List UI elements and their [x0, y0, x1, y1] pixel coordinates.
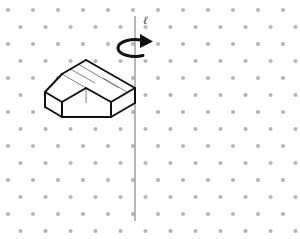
- grid-dot: [231, 212, 235, 216]
- grid-dot: [68, 161, 72, 165]
- grid-dot: [81, 212, 85, 216]
- grid-dot: [181, 144, 185, 148]
- grid-dot: [118, 229, 122, 233]
- grid-dot: [193, 93, 197, 97]
- grid-dot: [231, 42, 235, 46]
- grid-dot: [231, 144, 235, 148]
- grid-dot: [231, 110, 235, 114]
- grid-dot: [118, 59, 122, 63]
- grid-dot: [218, 25, 222, 29]
- grid-dot: [56, 178, 60, 182]
- grid-dot: [31, 178, 35, 182]
- grid-dot: [143, 127, 147, 131]
- grid-dot: [6, 110, 10, 114]
- grid-dot: [281, 42, 285, 46]
- grid-dot: [268, 25, 272, 29]
- grid-dot: [256, 110, 260, 114]
- rotation-arrow-ellipse: [118, 40, 143, 57]
- grid-dot: [181, 76, 185, 80]
- l-shaped-block: [45, 60, 135, 117]
- grid-dot: [281, 212, 285, 216]
- grid-dot: [18, 229, 22, 233]
- rotation-arrowhead-icon: [140, 34, 153, 48]
- grid-dot: [243, 161, 247, 165]
- grid-dot: [68, 229, 72, 233]
- grid-dot: [93, 25, 97, 29]
- grid-dot: [168, 229, 172, 233]
- grid-dot: [68, 59, 72, 63]
- grid-dot: [18, 59, 22, 63]
- grid-dot: [281, 8, 285, 12]
- grid-dot: [118, 127, 122, 131]
- grid-dot: [181, 178, 185, 182]
- grid-dot: [281, 110, 285, 114]
- grid-dot: [156, 178, 160, 182]
- grid-dot: [18, 25, 22, 29]
- grid-dot: [43, 59, 47, 63]
- grid-dot: [243, 93, 247, 97]
- axis-label: ℓ: [143, 14, 148, 26]
- grid-dot: [56, 144, 60, 148]
- grid-dot: [281, 144, 285, 148]
- grid-dot: [268, 195, 272, 199]
- grid-dot: [218, 127, 222, 131]
- grid-dot: [31, 212, 35, 216]
- grid-dot: [293, 161, 297, 165]
- grid-dot: [281, 76, 285, 80]
- grid-dot: [31, 42, 35, 46]
- grid-dot: [168, 127, 172, 131]
- grid-dot: [43, 195, 47, 199]
- grid-dot: [218, 161, 222, 165]
- grid-dot: [6, 144, 10, 148]
- grid-dot: [231, 178, 235, 182]
- grid-dot: [93, 161, 97, 165]
- grid-dot: [206, 212, 210, 216]
- grid-dot: [6, 76, 10, 80]
- grid-dot: [156, 8, 160, 12]
- grid-dot: [181, 110, 185, 114]
- grid-dot: [118, 25, 122, 29]
- grid-dot: [193, 161, 197, 165]
- grid-dot: [56, 212, 60, 216]
- grid-dot: [193, 127, 197, 131]
- grid-dot: [6, 212, 10, 216]
- grid-dot: [43, 25, 47, 29]
- grid-dot: [6, 8, 10, 12]
- grid-dot: [168, 25, 172, 29]
- grid-dot: [256, 76, 260, 80]
- isometric-figure: ℓ: [0, 0, 300, 239]
- grid-dot: [168, 161, 172, 165]
- grid-dot: [143, 59, 147, 63]
- grid-dot: [18, 195, 22, 199]
- grid-dot: [156, 110, 160, 114]
- grid-dot: [218, 229, 222, 233]
- grid-dot: [206, 76, 210, 80]
- grid-dot: [181, 212, 185, 216]
- grid-dot: [106, 178, 110, 182]
- grid-dot: [6, 178, 10, 182]
- grid-dot: [293, 229, 297, 233]
- grid-dot: [256, 144, 260, 148]
- grid-dot: [268, 161, 272, 165]
- grid-dot: [93, 229, 97, 233]
- grid-dot: [256, 212, 260, 216]
- grid-dot: [218, 195, 222, 199]
- grid-dot: [18, 127, 22, 131]
- grid-dot: [168, 93, 172, 97]
- grid-dot: [81, 8, 85, 12]
- grid-dot: [268, 59, 272, 63]
- grid-dot: [293, 93, 297, 97]
- grid-dot: [243, 25, 247, 29]
- grid-dot: [68, 25, 72, 29]
- grid-dot: [181, 42, 185, 46]
- grid-dot: [156, 212, 160, 216]
- grid-dot: [106, 42, 110, 46]
- grid-dot: [156, 42, 160, 46]
- grid-dot: [81, 144, 85, 148]
- grid-dot: [143, 195, 147, 199]
- grid-dot: [31, 110, 35, 114]
- grid-dot: [18, 93, 22, 97]
- grid-dot: [293, 59, 297, 63]
- grid-dot: [193, 229, 197, 233]
- grid-dot: [143, 229, 147, 233]
